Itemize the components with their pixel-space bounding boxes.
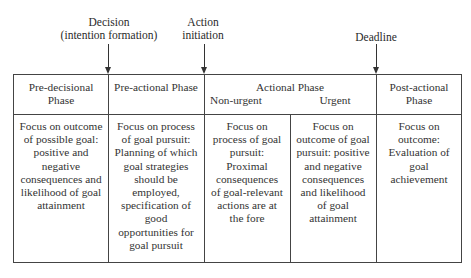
body-line: goal strategies	[108, 160, 204, 173]
body-line: of goal pursuit:	[108, 133, 204, 146]
body-line: Focus on	[376, 120, 462, 133]
header-text: Phase	[14, 94, 108, 107]
body-line: and likelihood	[290, 186, 376, 199]
body-line: Focus on process	[108, 120, 204, 133]
body-line: consequences	[290, 173, 376, 186]
subheader-text: Urgent	[319, 94, 350, 106]
subheader-text: Non-urgent	[210, 94, 262, 106]
action-arrowhead-icon	[201, 67, 207, 74]
body-line: Evaluation of	[376, 146, 462, 159]
body-actional-non-urgent: Focus on process of goal pursuit: Proxim…	[204, 120, 290, 226]
phase-table: Pre-decisional Phase Pre-actional Phase …	[13, 74, 462, 263]
body-line: process of goal	[204, 133, 290, 146]
header-text: Pre-actional Phase	[108, 81, 204, 94]
deadline-arrowhead-icon	[373, 67, 379, 74]
milestone-decision-line2: (intention formation)	[50, 29, 168, 42]
header-text: Pre-decisional	[14, 81, 108, 94]
body-line: Focus on	[290, 120, 376, 133]
body-line: outcome:	[376, 133, 462, 146]
body-line: consequences and	[14, 173, 108, 186]
action-arrow-shaft	[204, 44, 206, 68]
header-text: Phase	[376, 94, 462, 107]
body-line: goal pursuit	[108, 239, 204, 252]
body-line: consequences	[204, 173, 290, 186]
body-line: specification of	[108, 199, 204, 212]
body-line: actions are at	[204, 199, 290, 212]
body-line: good	[108, 212, 204, 225]
body-line: goal	[376, 160, 462, 173]
body-line: pursuit: positive	[290, 146, 376, 159]
body-line: and negative	[290, 160, 376, 173]
body-line: negative	[14, 160, 108, 173]
header-pre-actional: Pre-actional Phase	[108, 81, 204, 94]
body-post-actional: Focus on outcome: Evaluation of goal ach…	[376, 120, 462, 186]
header-pre-decisional: Pre-decisional Phase	[14, 81, 108, 107]
body-line: the fore	[204, 212, 290, 225]
milestone-action-line2: initiation	[175, 29, 231, 42]
header-divider	[14, 114, 461, 115]
body-line: Proximal	[204, 160, 290, 173]
body-line: Focus on	[204, 120, 290, 133]
milestone-decision-line1: Decision	[50, 16, 168, 29]
decision-arrow-shaft	[108, 44, 110, 68]
body-line: opportunities for	[108, 226, 204, 239]
body-line: of goal-relevant	[204, 186, 290, 199]
body-line: pursuit:	[204, 146, 290, 159]
body-actional-urgent: Focus on outcome of goal pursuit: positi…	[290, 120, 376, 226]
body-line: of possible goal:	[14, 133, 108, 146]
body-line: should be	[108, 173, 204, 186]
body-line: attainment	[290, 212, 376, 225]
milestone-decision-label: Decision (intention formation)	[50, 16, 168, 42]
body-pre-actional: Focus on process of goal pursuit: Planni…	[108, 120, 204, 252]
subheader-urgent: Urgent	[310, 94, 360, 107]
milestone-action-line1: Action	[175, 16, 231, 29]
deadline-arrow-shaft	[376, 44, 378, 68]
body-line: employed,	[108, 186, 204, 199]
body-line: Focus on outcome	[14, 120, 108, 133]
header-text: Actional Phase	[204, 81, 376, 94]
body-line: outcome of goal	[290, 133, 376, 146]
body-line: achievement	[376, 173, 462, 186]
body-line: attainment	[14, 199, 108, 212]
body-line: of goal	[290, 199, 376, 212]
decision-arrowhead-icon	[105, 67, 111, 74]
body-line: positive and	[14, 146, 108, 159]
body-line: likelihood of goal	[14, 186, 108, 199]
header-text: Post-actional	[376, 81, 462, 94]
header-actional: Actional Phase	[204, 81, 376, 94]
body-pre-decisional: Focus on outcome of possible goal: posit…	[14, 120, 108, 212]
milestone-deadline-label: Deadline	[346, 31, 406, 44]
milestone-deadline-line1: Deadline	[346, 31, 406, 44]
header-post-actional: Post-actional Phase	[376, 81, 462, 107]
body-line: Planning of which	[108, 146, 204, 159]
milestone-action-initiation-label: Action initiation	[175, 16, 231, 42]
subheader-non-urgent: Non-urgent	[210, 94, 262, 107]
